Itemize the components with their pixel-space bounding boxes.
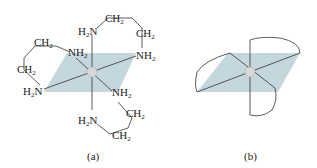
metal-atom (87, 67, 97, 77)
panel-a: H2N CH2 CH2 CH2 CH2 NH2 NH2 H2N NH2 H2N … (17, 12, 156, 163)
svg-text:NH2: NH2 (68, 46, 88, 60)
svg-text:CH2: CH2 (112, 129, 131, 143)
svg-text:CH2: CH2 (136, 27, 155, 41)
svg-text:CH2: CH2 (126, 107, 145, 121)
svg-text:CH2: CH2 (105, 12, 124, 26)
svg-text:H2N: H2N (78, 25, 97, 39)
svg-text:CH2: CH2 (34, 36, 53, 50)
svg-text:CH2: CH2 (17, 63, 36, 77)
svg-text:NH2: NH2 (112, 86, 132, 100)
panel-b: (b) (196, 37, 301, 163)
figure: H2N CH2 CH2 CH2 CH2 NH2 NH2 H2N NH2 H2N … (0, 0, 317, 168)
svg-text:H2N: H2N (23, 85, 42, 99)
svg-text:H2N: H2N (78, 114, 97, 128)
caption-a: (a) (87, 150, 100, 163)
metal-atom-b (245, 67, 255, 77)
caption-b: (b) (244, 150, 257, 163)
svg-text:NH2: NH2 (136, 49, 156, 63)
